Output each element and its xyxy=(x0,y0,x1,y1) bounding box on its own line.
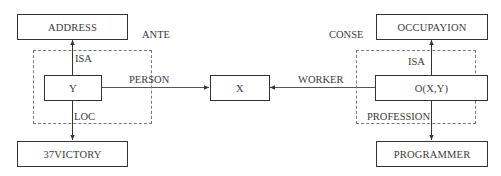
label-isa-right: ISA xyxy=(408,56,425,67)
node-programmer: PROGRAMMER xyxy=(376,141,488,167)
label-worker: WORKER xyxy=(298,74,344,85)
conse-label: CONSE xyxy=(329,29,363,40)
ante-label: ANTE xyxy=(142,29,170,40)
label-person: PERSON xyxy=(129,74,169,85)
node-37victory: 37VICTORY xyxy=(17,141,128,167)
node-x: X xyxy=(210,75,270,101)
node-occupation: OCCUPAYION xyxy=(376,14,488,40)
node-o: O(X,Y) xyxy=(375,75,488,101)
label-isa-left: ISA xyxy=(75,53,92,64)
node-address: ADDRESS xyxy=(17,14,128,40)
node-y: Y xyxy=(44,75,102,101)
label-loc: LOC xyxy=(74,111,95,122)
label-profession: PROFESSION xyxy=(367,111,430,122)
